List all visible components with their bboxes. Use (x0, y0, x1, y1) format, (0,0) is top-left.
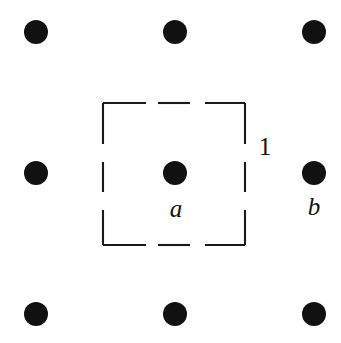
dot-top-right (302, 20, 326, 44)
dot-bottom-center (163, 302, 187, 326)
label-point-a: a (170, 195, 183, 222)
dot-middle-left (24, 161, 48, 185)
label-side-length: 1 (259, 133, 272, 160)
dot-top-left (24, 20, 48, 44)
dot-center (163, 161, 187, 185)
dot-bottom-left (24, 302, 48, 326)
label-point-b: b (308, 193, 321, 220)
dot-bottom-right (302, 302, 326, 326)
dot-top-center (163, 20, 187, 44)
lattice-diagram-canvas: a b 1 (0, 0, 341, 343)
dot-middle-right (302, 161, 326, 185)
lattice-figure: a b 1 (0, 0, 341, 343)
